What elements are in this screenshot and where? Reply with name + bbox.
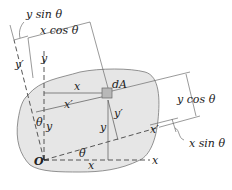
label-x-prime-mid: x′ (64, 98, 73, 111)
dA-element (102, 88, 112, 98)
label-y-axis: y (40, 52, 48, 65)
label-x-sin-theta: x sin θ (189, 137, 225, 150)
label-x-top: x (74, 80, 81, 93)
label-theta-bottom: θ (79, 147, 86, 160)
label-dA: dA (112, 78, 127, 91)
label-origin: O (34, 155, 44, 168)
label-x-cos-theta: x cos θ (40, 24, 79, 37)
label-y-prime-element: y′ (113, 107, 123, 120)
label-y-prime-left: y′ (14, 58, 24, 71)
area-rotation-diagram: y sin θ x cos θ y′ y dA x x′ θ y y′ y y … (0, 0, 232, 190)
label-y-element: y (99, 121, 107, 134)
label-x-bottom: x (88, 159, 95, 172)
label-y-left: y (45, 120, 53, 133)
diagram-canvas: y sin θ x cos θ y′ y dA x x′ θ y y′ y y … (0, 0, 232, 190)
label-theta-left: θ (36, 116, 43, 129)
label-x-prime-axis: x′ (150, 123, 159, 136)
label-x-axis: x (152, 154, 159, 167)
label-y-sin-theta: y sin θ (25, 8, 62, 21)
label-y-cos-theta: y cos θ (176, 93, 216, 106)
